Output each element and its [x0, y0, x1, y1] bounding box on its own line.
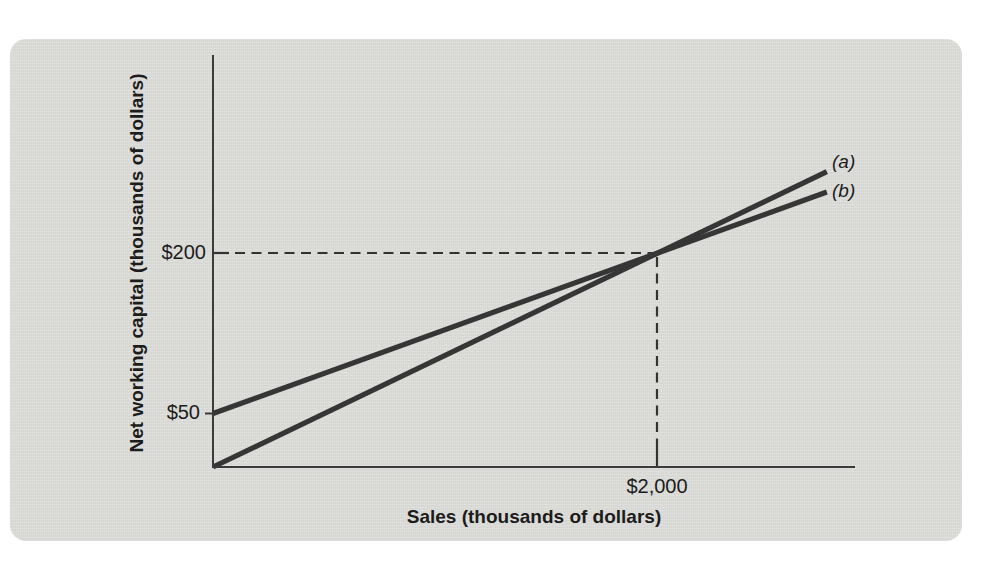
series-line-b	[213, 192, 827, 413]
series-b-label: (b)	[832, 180, 855, 202]
y-tick-label-200: $200	[120, 241, 206, 264]
series-line-a	[213, 172, 827, 467]
series-a-label: (a)	[832, 151, 855, 173]
plot-svg	[0, 0, 1005, 588]
x-tick-label-2000: $2,000	[597, 475, 717, 498]
x-axis-title: Sales (thousands of dollars)	[400, 506, 668, 528]
figure-canvas: Net working capital (thousands of dollar…	[0, 0, 1005, 588]
axes-lines	[213, 55, 855, 467]
y-tick-label-50: $50	[120, 401, 200, 424]
